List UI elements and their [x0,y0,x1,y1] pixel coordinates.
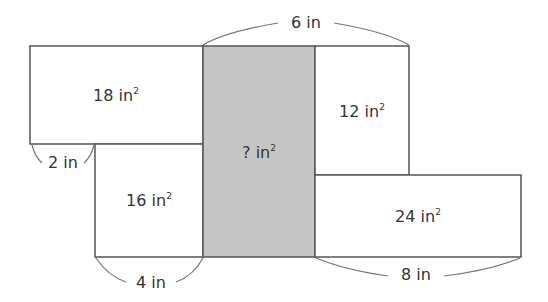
brace-bottom-right-right-arm [444,258,520,276]
area-label-bottom-right: 24 in2 [395,207,441,226]
brace-bottom-left-right-arm [176,258,203,282]
brace-top-left-arm [203,23,278,45]
area-label-top-left: 18 in2 [93,86,139,105]
dimension-left-gap: 2 in [48,153,78,172]
area-label-bottom-left: 16 in2 [126,191,172,210]
brace-bottom-right-left-arm [316,258,388,276]
area-label-top-right: 12 in2 [339,102,385,121]
dimension-top-width: 6 in [291,13,321,32]
dimension-bottom-right-width: 8 in [401,265,431,284]
area-diagram: 18 in2 16 in2 ? in2 12 in2 24 in2 6 in 2… [0,0,548,302]
brace-left-gap-right-arm [84,145,94,163]
dimension-bottom-left-width: 4 in [136,273,166,292]
brace-left-gap-left-arm [32,145,42,163]
brace-top-right-arm [334,23,409,45]
brace-bottom-left-left-arm [96,258,126,282]
